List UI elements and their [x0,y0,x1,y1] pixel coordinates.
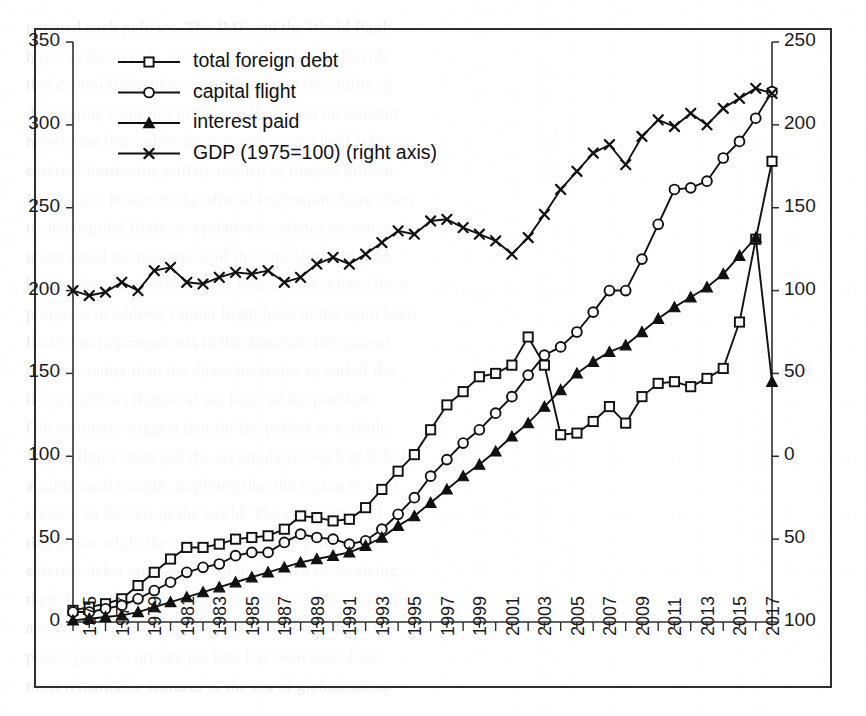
series-marker-0 [150,568,159,577]
series-marker-0 [475,372,484,381]
series-marker-1 [442,455,452,465]
series-marker-1 [751,113,761,123]
x-tick-label: 1993 [373,596,394,636]
legend-label-1: capital flight [193,80,296,103]
series-marker-1 [166,577,176,587]
series-marker-0 [231,535,240,544]
series-marker-1 [605,286,615,296]
series-marker-1 [393,509,403,519]
legend-marker-0 [144,57,153,66]
x-tick-label: 1989 [308,596,329,636]
legend-label-0: total foreign debt [193,49,338,72]
series-marker-0 [491,369,500,378]
x-tick-label: 1995 [405,596,426,636]
series-marker-0 [572,428,581,437]
series-marker-0 [133,581,142,590]
series-marker-0 [686,382,695,391]
series-marker-1 [686,183,696,193]
x-tick-label: 2001 [503,596,524,636]
series-marker-1 [702,176,712,186]
series-marker-0 [670,377,679,386]
series-marker-1 [263,548,273,558]
series-marker-1 [149,586,159,596]
series-marker-2 [685,292,696,302]
y-tick-label-right: 250 [784,29,844,51]
series-marker-0 [637,392,646,401]
x-tick-label: 1999 [470,596,491,636]
y-tick-label-left: 200 [0,278,60,300]
series-marker-0 [426,425,435,434]
series-marker-1 [523,370,533,380]
series-marker-1 [588,307,598,317]
series-marker-0 [702,374,711,383]
y-tick-label-right: 200 [784,112,844,134]
series-marker-1 [670,185,680,195]
series-marker-1 [247,548,257,558]
series-marker-0 [605,402,614,411]
chart-figure: 0501001502002503003501005005010015020025… [0,0,866,716]
series-marker-1 [182,567,192,577]
series-marker-1 [198,562,208,572]
y-tick-label-left: 250 [0,195,60,217]
y-tick-label-left: 50 [0,526,60,548]
series-marker-1 [458,438,468,448]
series-marker-0 [556,430,565,439]
series-marker-0 [280,525,289,534]
series-marker-0 [507,361,516,370]
series-line-3 [73,88,772,295]
y-tick-label-left: 350 [0,29,60,51]
series-marker-2 [767,376,778,386]
series-marker-2 [572,368,583,378]
series-marker-0 [621,419,630,428]
series-marker-1 [507,392,517,402]
y-tick-label-right: 0 [784,443,844,465]
series-marker-0 [410,450,419,459]
series-marker-0 [719,364,728,373]
x-tick-label: 1985 [243,596,264,636]
y-tick-label-left: 100 [0,443,60,465]
series-marker-0 [459,387,468,396]
series-marker-2 [653,313,664,323]
series-marker-0 [182,543,191,552]
series-marker-1 [133,594,143,604]
series-marker-0 [524,332,533,341]
y-tick-label-right: 50 [784,526,844,548]
x-tick-label: 1987 [275,596,296,636]
series-marker-2 [458,471,469,481]
series-marker-0 [442,400,451,409]
x-tick-label: 2007 [600,596,621,636]
series-marker-2 [393,520,404,530]
series-marker-1 [556,342,566,352]
y-tick-label-right: 100 [784,278,844,300]
series-marker-1 [491,408,501,418]
series-marker-0 [540,361,549,370]
x-tick-label: 1979 [145,596,166,636]
series-line-2 [73,238,772,621]
x-tick-label: 1983 [210,596,231,636]
series-marker-1 [279,538,289,548]
series-marker-1 [296,529,306,539]
series-marker-1 [735,137,745,147]
series-marker-0 [247,533,256,542]
series-marker-2 [604,346,615,356]
series-line-1 [73,92,772,612]
legend-label-3: GDP (1975=100) (right axis) [193,141,437,164]
series-marker-1 [540,350,550,360]
series-marker-2 [669,302,680,312]
series-marker-0 [767,157,776,166]
series-marker-0 [345,515,354,524]
y-tick-label-right: 150 [784,195,844,217]
y-tick-label-left: 0 [0,609,60,631]
series-marker-0 [198,543,207,552]
x-tick-label: 2011 [665,597,686,636]
series-marker-0 [589,417,598,426]
series-marker-1 [409,493,419,503]
legend-marker-1 [144,88,154,98]
series-marker-1 [572,327,582,337]
x-tick-label: 2005 [568,596,589,636]
x-tick-label: 2003 [535,596,556,636]
series-marker-0 [735,317,744,326]
y-tick-label-right: 100 [784,609,844,631]
series-marker-1 [231,551,241,561]
series-marker-1 [214,559,224,569]
